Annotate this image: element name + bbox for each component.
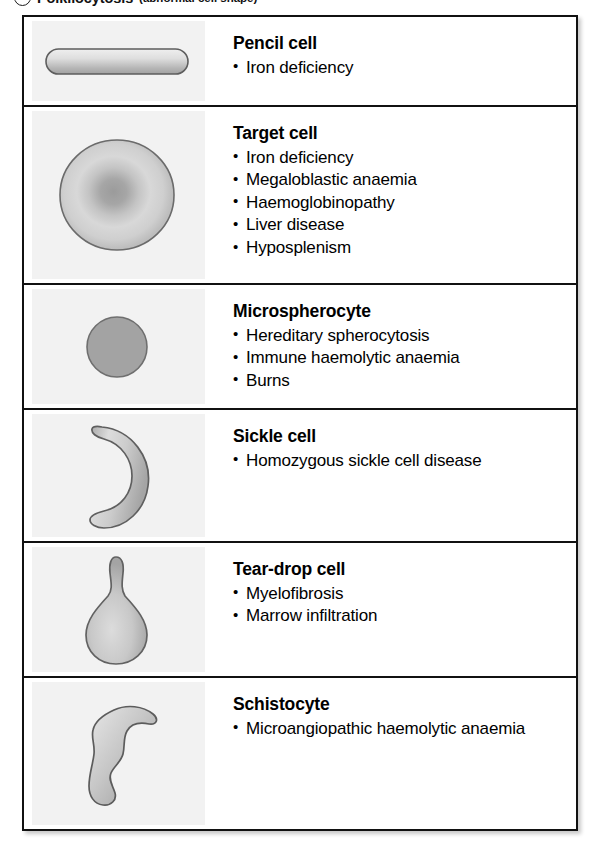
tear-drop-cell-icon — [75, 551, 159, 669]
cell-illustration-pane — [24, 285, 209, 408]
cause-item: Immune haemolytic anaemia — [233, 347, 564, 370]
table-row: Pencil cell Iron deficiency — [24, 17, 576, 107]
cause-item: Burns — [233, 370, 564, 393]
table-row: Target cell Iron deficiency Megaloblasti… — [24, 107, 576, 285]
cell-name: Tear-drop cell — [233, 559, 564, 580]
cause-item: Iron deficiency — [233, 57, 564, 80]
page-subtitle: (abnormal cell shape) — [139, 0, 257, 4]
cause-list: Iron deficiency Megaloblastic anaemia Ha… — [233, 147, 564, 260]
section-marker-icon — [14, 0, 31, 6]
cause-item: Marrow infiltration — [233, 605, 564, 628]
table-row: Sickle cell Homozygous sickle cell disea… — [24, 410, 576, 543]
table-row: Microspherocyte Hereditary spherocytosis… — [24, 285, 576, 410]
cause-list: Myelofibrosis Marrow infiltration — [233, 583, 564, 628]
table-row: Schistocyte Microangiopathic haemolytic … — [24, 678, 576, 829]
cause-list: Iron deficiency — [233, 57, 564, 80]
cause-item: Liver disease — [233, 214, 564, 237]
cause-item: Haemoglobinopathy — [233, 192, 564, 215]
cell-illustration-pane — [24, 17, 209, 105]
cause-item: Iron deficiency — [233, 147, 564, 170]
target-cell-icon — [56, 136, 178, 254]
cell-info-pane: Pencil cell Iron deficiency — [209, 17, 576, 105]
pencil-cell-icon — [42, 38, 192, 84]
cell-info-pane: Sickle cell Homozygous sickle cell disea… — [209, 410, 576, 541]
page-heading: Poikilocytosis (abnormal cell shape) — [0, 0, 602, 12]
cause-item: Myelofibrosis — [233, 583, 564, 606]
cell-name: Microspherocyte — [233, 301, 564, 322]
cause-list: Homozygous sickle cell disease — [233, 450, 564, 473]
cell-illustration-pane — [24, 410, 209, 541]
cell-info-pane: Target cell Iron deficiency Megaloblasti… — [209, 107, 576, 283]
poikilocytosis-table: Pencil cell Iron deficiency — [22, 15, 578, 831]
schistocyte-icon — [67, 694, 167, 814]
microspherocyte-icon — [84, 314, 150, 380]
cell-illustration-pane — [24, 543, 209, 676]
cell-name: Pencil cell — [233, 33, 564, 54]
table-row: Tear-drop cell Myelofibrosis Marrow infi… — [24, 543, 576, 678]
cell-illustration-pane — [24, 107, 209, 283]
cause-list: Hereditary spherocytosis Immune haemolyt… — [233, 325, 564, 393]
cell-info-pane: Microspherocyte Hereditary spherocytosis… — [209, 285, 576, 408]
page-title: Poikilocytosis — [37, 0, 133, 6]
cause-item: Microangiopathic haemolytic anaemia — [233, 718, 564, 741]
cause-item: Homozygous sickle cell disease — [233, 450, 564, 473]
cause-item: Hyposplenism — [233, 237, 564, 260]
cell-illustration-pane — [24, 678, 209, 829]
cause-item: Hereditary spherocytosis — [233, 325, 564, 348]
cell-name: Sickle cell — [233, 426, 564, 447]
cell-info-pane: Schistocyte Microangiopathic haemolytic … — [209, 678, 576, 829]
sickle-cell-icon — [74, 418, 160, 534]
cell-info-pane: Tear-drop cell Myelofibrosis Marrow infi… — [209, 543, 576, 676]
cause-list: Microangiopathic haemolytic anaemia — [233, 718, 564, 741]
cause-item: Megaloblastic anaemia — [233, 169, 564, 192]
cell-name: Target cell — [233, 123, 564, 144]
cell-name: Schistocyte — [233, 694, 564, 715]
